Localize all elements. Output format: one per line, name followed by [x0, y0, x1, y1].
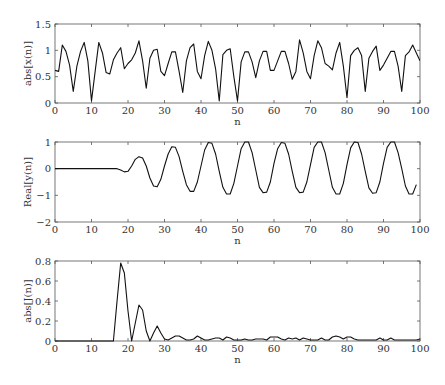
x-tick-label: 90 [377, 343, 390, 354]
x-tick-label: 20 [122, 105, 135, 116]
x-tick-label: 70 [304, 105, 317, 116]
x-tick-label: 70 [304, 343, 317, 354]
x-tick-label: 80 [341, 224, 354, 235]
data-line [55, 263, 420, 341]
x-tick-label: 20 [122, 224, 135, 235]
y-tick-label: 1.5 [35, 19, 51, 30]
axes-box [55, 261, 420, 341]
x-tick-label: 30 [158, 343, 171, 354]
x-tick-label: 70 [304, 224, 317, 235]
x-tick-label: 80 [341, 343, 354, 354]
x-axis-label: n [234, 235, 241, 246]
x-tick-label: 10 [85, 224, 98, 235]
y-tick-label: 0.4 [35, 296, 51, 307]
x-tick-label: 40 [195, 343, 208, 354]
y-tick-label: 0.6 [35, 276, 51, 287]
y-tick-label: 0 [45, 336, 51, 347]
x-tick-label: 40 [195, 224, 208, 235]
x-tick-label: 10 [85, 105, 98, 116]
y-tick-label: 0.2 [35, 316, 51, 327]
data-line [55, 142, 416, 194]
x-tick-label: 30 [158, 105, 171, 116]
y-axis-label: abs[J(n)] [22, 279, 33, 323]
x-axis-label: n [234, 354, 241, 365]
subplot-2: 0102030405060708090100−2−101nReal[y(n)] [22, 137, 430, 247]
x-tick-label: 50 [231, 224, 244, 235]
x-tick-label: 30 [158, 224, 171, 235]
x-tick-label: 50 [231, 343, 244, 354]
x-tick-label: 40 [195, 105, 208, 116]
x-tick-label: 60 [268, 224, 281, 235]
x-tick-label: 60 [268, 343, 281, 354]
x-tick-label: 10 [85, 343, 98, 354]
y-tick-label: 0 [45, 98, 51, 109]
data-line [55, 40, 420, 101]
x-tick-label: 100 [410, 343, 429, 354]
y-tick-label: 1 [45, 137, 51, 148]
x-tick-label: 50 [231, 105, 244, 116]
x-tick-label: 90 [377, 224, 390, 235]
x-tick-label: 0 [52, 105, 58, 116]
x-tick-label: 0 [52, 343, 58, 354]
y-tick-label: 0.5 [35, 71, 51, 82]
y-tick-label: 1 [45, 45, 51, 56]
y-axis-label: abs[x(n)] [22, 41, 33, 86]
x-tick-label: 20 [122, 343, 135, 354]
subplot-1: 010203040506070809010000.511.5nabs[x(n)] [22, 19, 430, 128]
subplot-3: 010203040506070809010000.20.40.60.8nabs[… [22, 256, 430, 366]
axes-box [55, 142, 420, 222]
y-tick-label: 0 [45, 163, 51, 174]
y-tick-label: 0.8 [35, 256, 51, 267]
y-axis-label: Real[y(n)] [22, 157, 33, 207]
x-tick-label: 100 [410, 105, 429, 116]
x-tick-label: 0 [52, 224, 58, 235]
x-tick-label: 60 [268, 105, 281, 116]
x-axis-label: n [234, 116, 241, 127]
y-tick-label: −2 [36, 217, 51, 228]
figure: 010203040506070809010000.511.5nabs[x(n)]… [0, 0, 445, 385]
x-tick-label: 90 [377, 105, 390, 116]
x-tick-label: 80 [341, 105, 354, 116]
y-tick-label: −1 [36, 190, 51, 201]
x-tick-label: 100 [410, 224, 429, 235]
